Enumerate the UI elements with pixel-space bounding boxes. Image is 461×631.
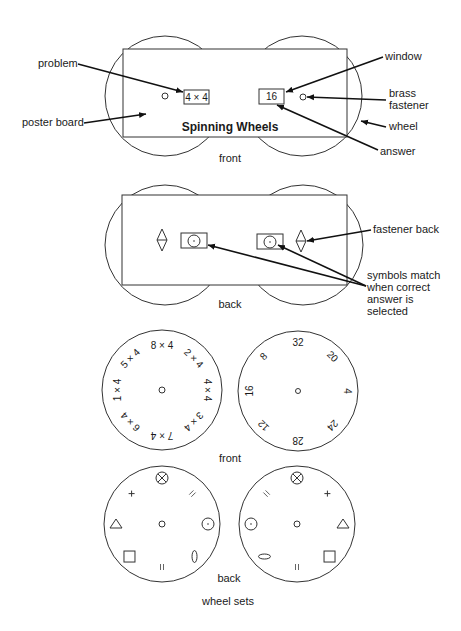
plus-symbol-icon — [324, 491, 330, 497]
spinning-wheels-diagram: 4 × 4 16 Spinning Wheels front problem p… — [0, 0, 461, 631]
plus-symbol-icon — [129, 491, 135, 497]
double-line-symbol-icon — [296, 564, 299, 570]
back-caption: back — [218, 298, 242, 310]
answer-wheel — [238, 331, 358, 451]
triangle-symbol-icon — [337, 519, 349, 528]
poster-board-label: poster board — [22, 116, 84, 128]
brass-fastener-label-1: brass — [389, 87, 416, 99]
window-label: window — [384, 50, 422, 62]
back-symbols-wheel-right — [239, 466, 355, 582]
problem-wheel-label: 7 × 4 — [150, 430, 173, 441]
answer-wheel-label: 28 — [292, 435, 304, 446]
triangle-symbol-icon — [110, 519, 122, 528]
back-left-center-icon — [159, 521, 165, 527]
problem-wheel-center-icon — [159, 387, 165, 393]
answer-wheel-center-icon — [296, 389, 301, 394]
circle-dot-center — [207, 523, 209, 525]
back-view: back fastener back symbols match when co… — [105, 185, 440, 317]
wheel-back-caption: back — [217, 572, 241, 584]
circle-x-cross — [158, 474, 166, 482]
fastener-back-label: fastener back — [373, 223, 440, 235]
symbols-label-4: selected — [367, 305, 408, 317]
symbols-label-3: answer is — [367, 293, 414, 305]
problem-wheel-label: 4 × 4 — [202, 379, 213, 402]
problem-window-text: 4 × 4 — [185, 92, 208, 103]
problem-wheel-label: 6 × 4 — [118, 410, 142, 434]
double-line-symbol-icon — [263, 490, 269, 496]
ellipse-symbol-icon — [258, 554, 270, 559]
symbols-label-1: symbols match — [367, 269, 440, 281]
circle-x-cross — [293, 474, 301, 482]
answer-wheel-label: 32 — [292, 337, 304, 348]
double-line-symbol-icon — [189, 490, 195, 496]
problem-wheel-label: 5 × 4 — [118, 346, 142, 370]
problem-wheel-label: 2 × 4 — [182, 346, 206, 370]
answer-label: answer — [380, 145, 416, 157]
answer-wheel-label: 8 — [258, 350, 270, 362]
wheel-sets: 8 × 42 × 44 × 43 × 47 × 46 × 41 × 45 × 4… — [102, 330, 358, 607]
back-symbols-wheel-left — [104, 466, 220, 582]
brass-fastener-label-2: fastener — [389, 99, 429, 111]
back-right-center-icon — [294, 521, 300, 527]
problem-wheel-label: 8 × 4 — [151, 340, 174, 351]
wheel-arrow — [361, 121, 386, 127]
problem-label: problem — [38, 57, 78, 69]
answer-wheel-label: 16 — [244, 385, 255, 397]
problem-wheel-label: 3 × 4 — [182, 410, 206, 434]
ellipse-symbol-icon — [192, 551, 197, 563]
answer-wheel-label: 4 — [342, 388, 353, 394]
answer-wheel-label: 12 — [255, 417, 271, 433]
square-symbol-icon — [124, 551, 135, 562]
answer-window-text: 16 — [266, 91, 278, 102]
answer-wheel-label: 24 — [324, 418, 340, 434]
symbols-label-2: when correct — [366, 281, 430, 293]
front-caption: front — [219, 152, 241, 164]
wheel-front-caption: front — [219, 452, 241, 464]
double-line-symbol-icon — [161, 564, 164, 570]
circle-dot-center — [250, 523, 252, 525]
board-title: Spinning Wheels — [182, 120, 279, 134]
answer-wheel-label: 20 — [325, 349, 341, 365]
wheel-sets-caption: wheel sets — [201, 595, 254, 607]
front-view: 4 × 4 16 Spinning Wheels front problem p… — [22, 36, 429, 164]
wheel-label: wheel — [388, 120, 418, 132]
problem-wheel-label: 1 × 4 — [112, 378, 123, 401]
square-symbol-icon — [324, 551, 335, 562]
